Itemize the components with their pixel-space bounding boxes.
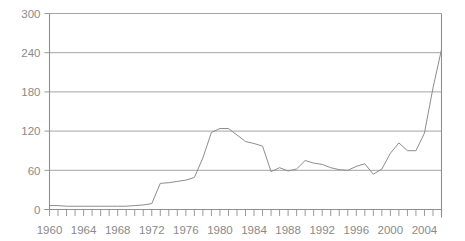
line-chart: 060120180240300 196019641968197219761980… [0,0,465,241]
chart-svg: 060120180240300 196019641968197219761980… [0,0,465,241]
x-axis-tick-label: 1988 [275,224,301,236]
gridlines-group [50,14,442,171]
y-axis-tick-label: 0 [34,204,40,216]
x-axis-tick-label: 1980 [207,224,233,236]
x-axis-tick-label: 2004 [412,224,438,236]
x-axis-tick-label: 1984 [241,224,267,236]
y-axis-tick-label: 240 [21,47,40,59]
y-axis-tick-label: 60 [28,165,41,177]
x-axis-tick-label: 1960 [37,224,63,236]
x-axis-tick-label: 2000 [378,224,404,236]
x-axis-tick-label: 1968 [105,224,131,236]
x-axis-tick-label: 1964 [71,224,97,236]
x-axis-tick-label: 1972 [139,224,165,236]
x-axis-labels-group: 1960196419681972197619801984198819921996… [37,224,438,236]
x-axis-tick-label: 1996 [343,224,369,236]
x-tick-marks-group [50,210,442,217]
y-axis-tick-label: 120 [21,125,40,137]
chart-container: 060120180240300 196019641968197219761980… [0,0,465,241]
x-axis-tick-label: 1992 [309,224,335,236]
y-axis-labels-group: 060120180240300 [21,8,49,216]
y-axis-tick-label: 300 [21,8,40,20]
data-series-line [50,49,442,206]
x-axis-tick-label: 1976 [173,224,199,236]
y-axis-tick-label: 180 [21,86,40,98]
